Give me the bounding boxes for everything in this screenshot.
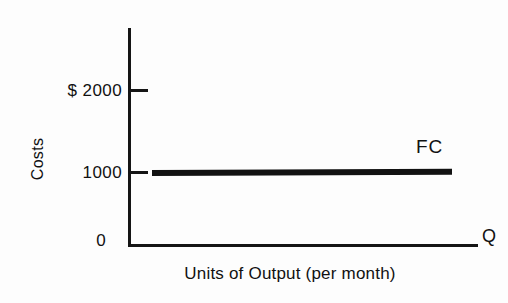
y-axis-line <box>128 28 131 247</box>
y-tick-mark-2000 <box>131 89 148 92</box>
x-axis-end-symbol: Q <box>482 226 496 247</box>
x-axis-line <box>128 244 478 247</box>
fixed-cost-line <box>152 169 452 176</box>
y-tick-label-1000: 1000 <box>36 163 122 183</box>
y-tick-mark-1000 <box>131 171 148 174</box>
y-tick-label-0: 0 <box>36 231 106 251</box>
fixed-cost-series-label: FC <box>416 136 443 158</box>
y-tick-label-2000: $ 2000 <box>36 81 122 101</box>
x-axis-title: Units of Output (per month) <box>0 264 508 284</box>
y-axis-title: Costs <box>29 117 47 201</box>
fixed-cost-chart: $ 2000 1000 0 FC Q Costs Units of Output… <box>0 0 508 303</box>
